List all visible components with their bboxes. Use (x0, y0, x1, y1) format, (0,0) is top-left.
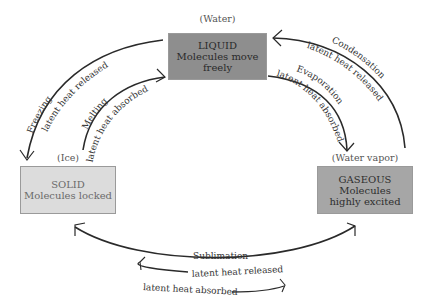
gaseous-desc-line1: Molecules (339, 185, 391, 196)
solid-desc-line1: Molecules locked (24, 190, 112, 201)
sublimation-absorbed-arrowhead-icon (280, 279, 285, 292)
sublimation-absorbed-label: latent heat absorbed (143, 282, 238, 297)
gaseous-title: GASEOUS (339, 174, 392, 185)
liquid-state-box: LIQUID Molecules move freely (168, 33, 267, 80)
sublimation-label: Sublimation (193, 251, 248, 261)
solid-title: SOLID (51, 179, 85, 190)
solid-caption: (Ice) (20, 152, 116, 163)
phase-change-diagram: Freezing latent heat released Melting la… (0, 0, 430, 307)
liquid-caption: (Water) (168, 13, 267, 24)
melting-heat-label: latent heat absorbed (85, 83, 150, 163)
gaseous-caption: (Water vapor) (309, 152, 421, 163)
sublimation-released-label: latent heat released (192, 264, 284, 279)
liquid-title: LIQUID (198, 40, 237, 51)
liquid-desc-line1: Molecules move (177, 51, 259, 62)
sublimation-released-arrow (138, 262, 188, 272)
gaseous-desc-line2: highly excited (329, 196, 400, 207)
gaseous-state-box: GASEOUS Molecules highly excited (317, 166, 413, 214)
sublimation-released-arrowhead-icon (140, 257, 145, 270)
solid-state-box: SOLID Molecules locked (20, 166, 116, 214)
sublimation-absorbed-arrow (232, 286, 284, 292)
liquid-desc-line2: freely (203, 62, 232, 73)
melting-arrowhead-icon (156, 69, 165, 82)
freezing-heat-label: latent heat released (40, 60, 110, 134)
